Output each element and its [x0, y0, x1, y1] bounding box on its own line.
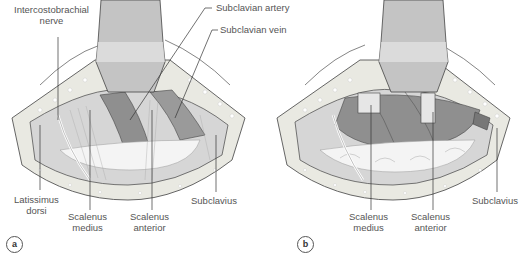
label-scalenus-anterior: Scalenus anterior — [411, 211, 450, 233]
label-scalenus-medius: Scalenus medius — [68, 211, 107, 233]
label-line: medius — [349, 222, 388, 233]
label-line: nerve — [14, 15, 89, 26]
label-latissimus-dorsi: Latissimus dorsi — [14, 194, 59, 216]
label-line: Scalenus — [130, 211, 169, 222]
label-line: Scalenus — [411, 211, 450, 222]
label-scalenus-medius: Scalenus medius — [349, 211, 388, 233]
dissection-illustration-b — [265, 0, 529, 258]
label-line: Scalenus — [68, 211, 107, 222]
label-intercostobrachial-nerve: Intercostobrachial nerve — [14, 4, 89, 26]
label-line: Latissimus — [14, 194, 59, 205]
label-line: Scalenus — [349, 211, 388, 222]
label-line: anterior — [411, 222, 450, 233]
panel-badge-a: a — [6, 236, 23, 253]
panel-badge-b: b — [297, 236, 314, 253]
label-line: Intercostobrachial — [14, 4, 89, 15]
label-subclavius: Subclavius — [191, 195, 237, 206]
label-line: medius — [68, 222, 107, 233]
label-subclavius: Subclavius — [472, 195, 518, 206]
panel-b: Scalenus medius Scalenus anterior Subcla… — [265, 0, 529, 258]
label-line: anterior — [130, 222, 169, 233]
panel-a: Intercostobrachial nerve Subclavian arte… — [0, 0, 264, 258]
label-scalenus-anterior: Scalenus anterior — [130, 211, 169, 233]
label-line: dorsi — [14, 205, 59, 216]
